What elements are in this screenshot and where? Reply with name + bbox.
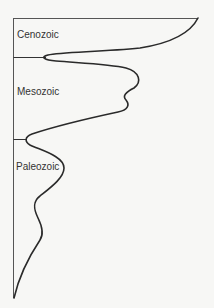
era-label-cenozoic: Cenozoic [17,30,59,40]
era-label-paleozoic: Paleozoic [16,162,59,172]
era-label-mesozoic: Mesozoic [17,87,59,97]
era-diversity-diagram [0,0,214,308]
diversity-curve [14,18,198,298]
